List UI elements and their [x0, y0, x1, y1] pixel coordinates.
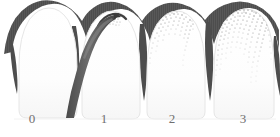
papilla-wedge-left-edge	[10, 40, 18, 94]
tooth-crown-0	[19, 8, 77, 118]
tooth-crown-1	[82, 11, 140, 119]
score-label-0: 0	[22, 112, 42, 126]
score-label-1: 1	[94, 112, 114, 126]
gingival-index-figure: 0 1 2 3	[0, 0, 280, 137]
score-label-2: 2	[162, 112, 182, 126]
tooth-crown-2	[147, 11, 205, 119]
score-label-3: 3	[233, 112, 253, 126]
tooth-crown-3	[214, 9, 274, 119]
tooth-score-3	[214, 9, 274, 119]
tooth-score-0	[19, 8, 77, 118]
tooth-score-2	[147, 11, 205, 119]
tooth-score-1	[82, 11, 140, 119]
